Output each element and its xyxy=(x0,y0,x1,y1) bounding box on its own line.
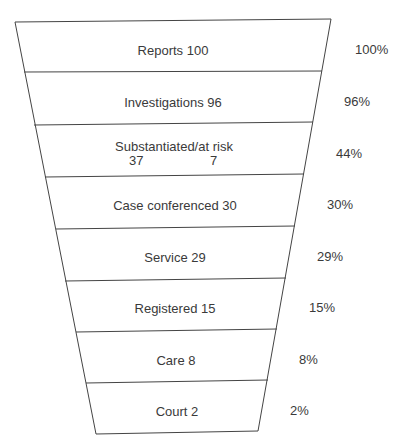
stage-label-case-conferenced: Case conferenced 30 xyxy=(113,198,237,213)
stage-label-registered: Registered 15 xyxy=(135,301,216,316)
stage-percent-case-conferenced: 30% xyxy=(327,197,353,212)
stage-percent-substantiated: 44% xyxy=(336,146,362,161)
stage-percent-court: 2% xyxy=(290,403,309,418)
substantiated-value-left: 37 xyxy=(129,153,143,168)
stage-label-care: Care 8 xyxy=(156,353,195,368)
stage-percent-investigations: 96% xyxy=(344,94,370,109)
stage-label-court: Court 2 xyxy=(156,404,199,419)
stage-percent-reports: 100% xyxy=(355,42,388,57)
stage-label-substantiated: Substantiated/at risk xyxy=(115,139,233,154)
stage-percent-registered: 15% xyxy=(309,300,335,315)
stage-percent-care: 8% xyxy=(299,352,318,367)
stage-percent-service: 29% xyxy=(317,249,343,264)
stage-label-reports: Reports 100 xyxy=(138,43,209,58)
stage-label-investigations: Investigations 96 xyxy=(124,95,222,110)
stage-label-service: Service 29 xyxy=(144,250,205,265)
substantiated-value-right: 7 xyxy=(210,153,217,168)
funnel-outline xyxy=(0,0,400,446)
